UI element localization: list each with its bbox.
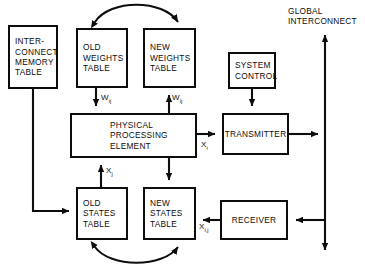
node-label-line: TRANSMITTER [225, 129, 287, 139]
node-label-line: WEIGHTS [150, 53, 190, 63]
edge-label-w-ij-old: Wij [101, 93, 111, 104]
node-label-line: OLD [83, 42, 101, 52]
node-interconnect-memory-table[interactable]: INTER- CONNECT MEMORY TABLE [8, 25, 58, 89]
global-interconnect-line: GLOBAL [288, 6, 357, 16]
node-new-weights-table[interactable]: NEW WEIGHTS TABLE [143, 28, 196, 88]
node-label-line: TABLE [150, 219, 177, 229]
memory-to-old-states-edge [33, 89, 69, 211]
global-interconnect-line: INTERCONNECT [288, 16, 357, 26]
edge-label-sub: ij [180, 98, 183, 104]
node-old-weights-table[interactable]: OLD WEIGHTS TABLE [76, 28, 128, 88]
node-label-line: TABLE [150, 63, 177, 73]
node-label-line: MEMORY [15, 57, 54, 67]
node-transmitter[interactable]: TRANSMITTER [222, 113, 289, 155]
node-label-line: INTER- [15, 36, 44, 46]
node-label-line: TABLE [15, 67, 42, 77]
node-label-line: WEIGHTS [83, 53, 123, 63]
states-swap-arc [95, 247, 178, 263]
edge-label-sub: ij [109, 98, 112, 104]
global-interconnect-label: GLOBAL INTERCONNECT [288, 6, 357, 27]
node-label-line: RECEIVER [232, 215, 276, 225]
edge-label-x-j-ppe: Xj [106, 166, 113, 177]
node-label-line: ELEMENT [110, 141, 151, 151]
node-label-line: PROCESSING [110, 130, 168, 140]
node-label-line: CONTROL [235, 71, 277, 81]
edge-label-x-i-j-receiver: Xi,j [199, 222, 208, 233]
node-old-states-table[interactable]: OLD STATES TABLE [76, 187, 128, 240]
weights-swap-arc [95, 5, 178, 22]
node-label-line: NEW [150, 42, 170, 52]
node-receiver[interactable]: RECEIVER [220, 200, 288, 240]
block-diagram: INTER- CONNECT MEMORY TABLE OLD WEIGHTS … [0, 0, 365, 270]
edge-label-x-i-transmitter: Xi [201, 140, 208, 151]
node-system-control[interactable]: SYSTEM CONTROL [228, 52, 276, 89]
node-label-line: TABLE [83, 219, 110, 229]
node-label-line: PHYSICAL [110, 120, 153, 130]
edge-label-sub: i [206, 145, 207, 151]
node-label-line: NEW [150, 198, 170, 208]
edge-label-base: W [172, 93, 180, 102]
edge-label-sub: i,j [204, 227, 208, 233]
node-physical-processing-element[interactable]: PHYSICAL PROCESSING ELEMENT [70, 113, 197, 158]
edge-label-w-ij-new: Wij [172, 93, 182, 104]
node-label-line: TABLE [83, 63, 110, 73]
node-label-line: CONNECT [15, 47, 58, 57]
node-label-line: STATES [150, 208, 183, 218]
node-label-line: OLD [83, 198, 101, 208]
edge-label-sub: j [111, 171, 112, 177]
node-label-line: SYSTEM [235, 60, 271, 70]
node-label-line: STATES [83, 208, 116, 218]
edge-label-base: W [101, 93, 109, 102]
node-new-states-table[interactable]: NEW STATES TABLE [143, 187, 196, 240]
